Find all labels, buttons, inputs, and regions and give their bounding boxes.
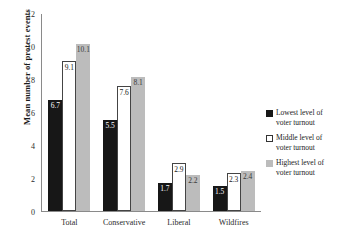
bar-value-label: 6.7 [51, 102, 60, 110]
y-axis-title: Mean number of protest events [22, 0, 32, 147]
legend-label-line2: voter turnout [276, 143, 315, 152]
bar-group: 1.72.92.2Liberal [152, 14, 207, 211]
bar-middle[interactable]: 9.1 [62, 61, 76, 211]
legend-item-label: Middle level ofvoter turnout [276, 133, 322, 152]
bar-highest[interactable]: 2.4 [241, 171, 255, 211]
bar-value-label: 1.7 [160, 185, 169, 193]
bar-middle[interactable]: 2.3 [227, 173, 241, 211]
bar-groups: 6.79.110.1Total5.57.68.1Conservative1.72… [42, 14, 261, 211]
bar-group: 6.79.110.1Total [42, 14, 97, 211]
legend-label-line1: Lowest level of [276, 108, 323, 117]
gray-square-icon [266, 160, 273, 167]
y-axis-tick-label: 8 [31, 76, 35, 85]
x-axis-line [41, 211, 261, 212]
legend-label-line2: voter turnout [276, 168, 315, 177]
bar-value-label: 8.1 [133, 79, 142, 87]
bar-value-label: 7.6 [119, 89, 128, 97]
legend-label-line2: voter turnout [276, 118, 315, 127]
bar-lowest[interactable]: 1.5 [213, 186, 227, 211]
bar-lowest[interactable]: 1.7 [158, 183, 172, 211]
bar-middle[interactable]: 7.6 [117, 86, 131, 211]
bar-value-label: 2.2 [188, 177, 197, 185]
legend-item-label: Lowest level ofvoter turnout [276, 108, 323, 127]
legend-item[interactable]: Highest level ofvoter turnout [266, 158, 358, 177]
bar-value-label: 5.5 [105, 122, 114, 130]
bar-value-label: 2.3 [229, 176, 238, 184]
bar-value-label: 1.5 [215, 188, 224, 196]
plot-area: 024681012 6.79.110.1Total5.57.68.1Conser… [41, 14, 261, 212]
y-axis-tick-label: 12 [27, 10, 35, 19]
bar-value-label: 10.1 [77, 46, 90, 54]
x-axis-category-label: Wildfires [219, 218, 249, 227]
bar-highest[interactable]: 10.1 [76, 44, 90, 211]
bar-highest[interactable]: 2.2 [186, 175, 200, 211]
black-square-icon [266, 110, 273, 117]
x-axis-category-label: Conservative [103, 218, 145, 227]
bar-value-label: 9.1 [65, 64, 74, 72]
white-square-icon [266, 135, 273, 142]
legend-label-line1: Middle level of [276, 133, 322, 142]
legend-item[interactable]: Lowest level ofvoter turnout [266, 108, 358, 127]
bar-value-label: 2.4 [243, 173, 252, 181]
bar-group: 5.57.68.1Conservative [97, 14, 152, 211]
y-axis-tick-label: 6 [31, 109, 35, 118]
bar-middle[interactable]: 2.9 [172, 163, 186, 211]
y-axis-tick-label: 0 [31, 208, 35, 217]
legend-item-label: Highest level ofvoter turnout [276, 158, 324, 177]
legend-label-line1: Highest level of [276, 158, 324, 167]
chart-legend: Lowest level ofvoter turnoutMiddle level… [266, 108, 358, 183]
y-axis-tick-label: 10 [27, 43, 35, 52]
bar-lowest[interactable]: 6.7 [48, 100, 62, 211]
y-axis-tick-label: 4 [31, 142, 35, 151]
x-axis-category-label: Liberal [167, 218, 190, 227]
bar-lowest[interactable]: 5.5 [103, 120, 117, 211]
bar-chart: Mean number of protest events 024681012 … [0, 0, 358, 251]
legend-item[interactable]: Middle level ofvoter turnout [266, 133, 358, 152]
bar-group: 1.52.32.4Wildfires [206, 14, 261, 211]
bar-value-label: 2.9 [174, 166, 183, 174]
bar-highest[interactable]: 8.1 [131, 77, 145, 211]
y-axis-tick-label: 2 [31, 175, 35, 184]
x-axis-category-label: Total [61, 218, 77, 227]
